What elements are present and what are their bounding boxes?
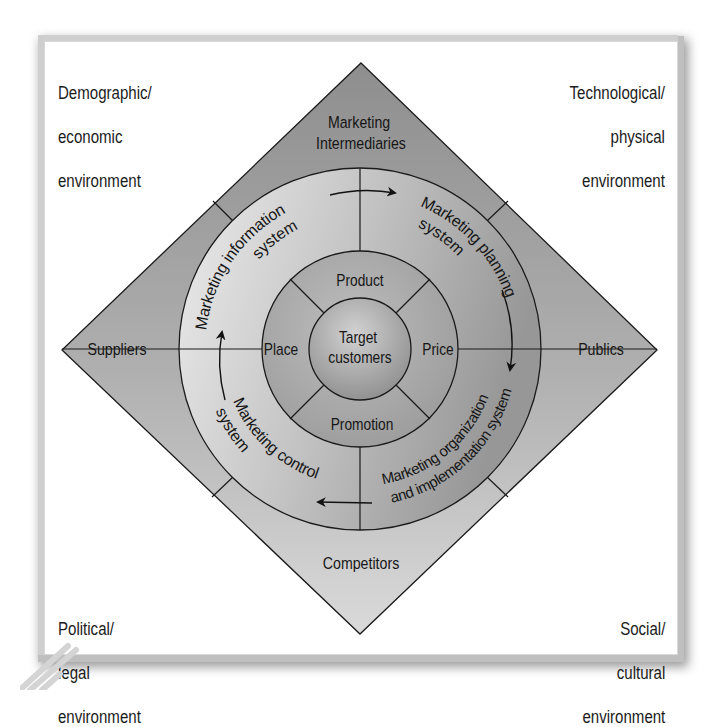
env-line: Political/	[58, 618, 141, 640]
decorative-stroke-icon	[20, 640, 90, 690]
mix-price: Price	[422, 340, 453, 358]
actor-suppliers: Suppliers	[87, 340, 146, 358]
env-line: Demographic/	[58, 82, 152, 104]
actor-publics: Publics	[578, 340, 624, 358]
env-line: economic	[58, 126, 152, 148]
env-line: cultural	[582, 662, 665, 684]
arrow-org-to-control	[318, 502, 372, 503]
env-line: environment	[582, 706, 665, 727]
env-line: environment	[570, 170, 665, 192]
mix-product: Product	[336, 271, 384, 289]
mix-promotion: Promotion	[331, 415, 394, 433]
env-demographic-economic: Demographic/ economic environment	[58, 60, 152, 214]
env-line: Technological/	[570, 82, 665, 104]
env-line: environment	[58, 170, 152, 192]
env-line: physical	[570, 126, 665, 148]
env-line: environment	[58, 706, 141, 727]
env-technological-physical: Technological/ physical environment	[570, 60, 665, 214]
mix-place: Place	[264, 340, 298, 358]
actor-competitors: Competitors	[323, 554, 400, 572]
env-line: Social/	[582, 618, 665, 640]
env-social-cultural: Social/ cultural environment	[582, 596, 665, 727]
